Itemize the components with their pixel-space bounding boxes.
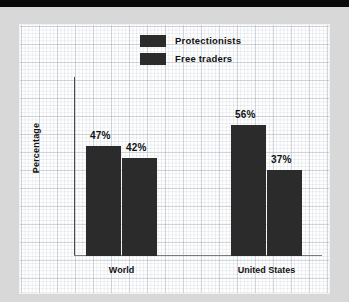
top-black-band bbox=[0, 0, 349, 7]
bar-value-united-states-free-traders: 37% bbox=[271, 154, 292, 165]
chart-panel: Protectionists Free traders Percentage 4… bbox=[20, 25, 329, 293]
chart-screenshot: Protectionists Free traders Percentage 4… bbox=[0, 0, 349, 302]
category-label-world: World bbox=[86, 265, 157, 275]
plot-area: Percentage 47% 42% World 56% 37% United … bbox=[20, 25, 329, 293]
bar-value-united-states-protectionists: 56% bbox=[235, 109, 256, 120]
category-label-united-states: United States bbox=[225, 265, 308, 275]
bar-value-world-protectionists: 47% bbox=[90, 130, 111, 141]
bar-world-free-traders bbox=[122, 158, 157, 256]
y-axis-label: Percentage bbox=[31, 108, 41, 188]
bar-value-world-free-traders: 42% bbox=[126, 142, 147, 153]
y-axis-line bbox=[74, 77, 75, 256]
bar-world-protectionists bbox=[86, 146, 121, 256]
bar-united-states-free-traders bbox=[267, 170, 302, 256]
page-background: Protectionists Free traders Percentage 4… bbox=[0, 7, 349, 302]
bar-united-states-protectionists bbox=[231, 125, 266, 256]
